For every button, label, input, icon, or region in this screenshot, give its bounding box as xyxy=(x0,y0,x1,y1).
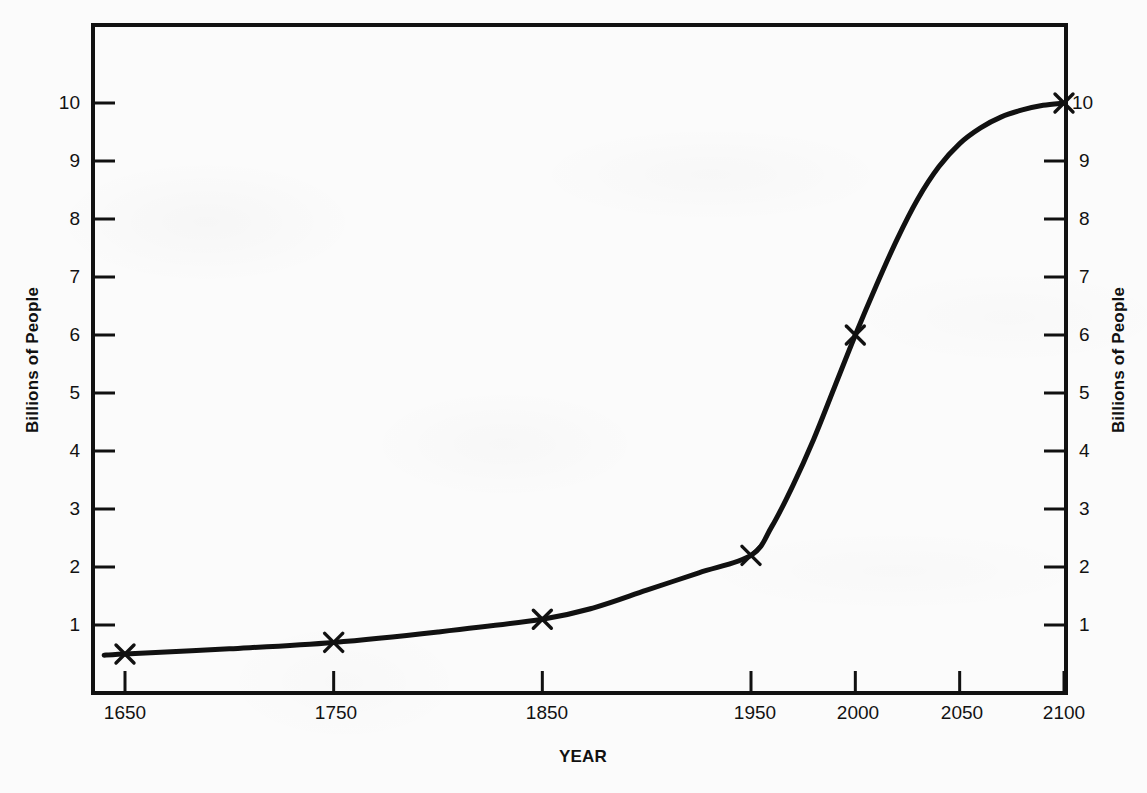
y-tick-label-right-10: 10 xyxy=(1072,92,1093,114)
y-tick-label-right-5: 5 xyxy=(1079,382,1090,404)
x-axis-ticks xyxy=(125,671,1064,691)
y-tick-label-left-2: 2 xyxy=(69,556,80,578)
population-growth-chart xyxy=(0,0,1147,793)
y-axis-title-left: Billions of People xyxy=(23,287,43,433)
y-tick-label-right-6: 6 xyxy=(1079,324,1090,346)
x-tick-label-1650: 1650 xyxy=(104,702,146,724)
y-tick-label-right-7: 7 xyxy=(1079,266,1090,288)
y-tick-label-left-7: 7 xyxy=(69,266,80,288)
y-tick-label-right-4: 4 xyxy=(1079,440,1090,462)
x-tick-label-1850: 1850 xyxy=(526,702,568,724)
y-tick-label-left-5: 5 xyxy=(69,382,80,404)
y-tick-label-right-2: 2 xyxy=(1079,556,1090,578)
plot-border xyxy=(93,25,1066,693)
y-tick-label-left-4: 4 xyxy=(69,440,80,462)
y-tick-label-left-3: 3 xyxy=(69,498,80,520)
data-point-marker xyxy=(742,546,760,564)
x-tick-label-2100: 2100 xyxy=(1043,702,1085,724)
y-tick-label-left-8: 8 xyxy=(69,208,80,230)
x-tick-label-2050: 2050 xyxy=(941,702,983,724)
plot-frame xyxy=(93,25,1066,693)
y-tick-label-right-8: 8 xyxy=(1079,208,1090,230)
y-axis-title-right: Billions of People xyxy=(1109,287,1129,433)
y-tick-label-right-3: 3 xyxy=(1079,498,1090,520)
x-tick-label-2000: 2000 xyxy=(837,702,879,724)
population-curve xyxy=(104,103,1064,655)
y-tick-label-left-6: 6 xyxy=(69,324,80,346)
y-tick-label-right-1: 1 xyxy=(1079,614,1090,636)
y-tick-label-left-10: 10 xyxy=(59,92,80,114)
y-tick-label-left-1: 1 xyxy=(69,614,80,636)
y-tick-label-left-9: 9 xyxy=(69,150,80,172)
y-axis-right-ticks xyxy=(1044,161,1064,625)
x-axis-title: YEAR xyxy=(559,747,607,767)
y-tick-label-right-9: 9 xyxy=(1079,150,1090,172)
x-tick-label-1750: 1750 xyxy=(315,702,357,724)
y-axis-left-ticks xyxy=(95,103,115,625)
x-tick-label-1950: 1950 xyxy=(734,702,776,724)
chart-page: 10 9 8 7 6 5 4 3 2 1 10 9 8 7 6 5 4 3 2 … xyxy=(0,0,1147,793)
